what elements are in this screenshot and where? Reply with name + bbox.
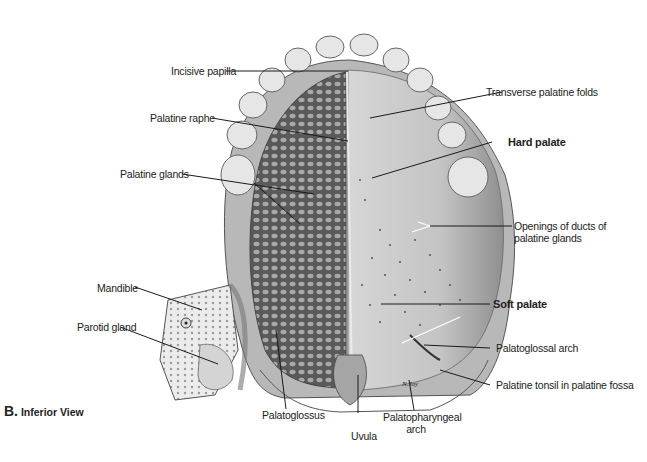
label-palatine-glands: Palatine glands: [120, 168, 189, 180]
anatomy-figure: N.Joy Incisive papilla Palatine raphe Pa…: [0, 0, 647, 462]
label-uvula: Uvula: [351, 430, 377, 442]
label-mandible: Mandible: [97, 282, 138, 294]
label-parotid-gland: Parotid gland: [77, 321, 136, 333]
label-openings-of-ducts: Openings of ducts of palatine glands: [514, 220, 606, 244]
label-palatopharyngeal-arch: Palatopharyngeal arch: [383, 411, 449, 435]
label-soft-palate: Soft palate: [493, 298, 547, 310]
label-palatine-raphe: Palatine raphe: [150, 112, 215, 124]
label-incisive-papilla: Incisive papilla: [171, 65, 236, 77]
label-palatoglossal-arch: Palatoglossal arch: [496, 342, 578, 354]
mandible-section: [160, 285, 245, 400]
panel-title: Inferior View: [21, 406, 84, 418]
figure-caption: B. Inferior View: [4, 403, 84, 419]
label-hard-palate: Hard palate: [508, 136, 566, 148]
label-palatoglossus: Palatoglossus: [262, 409, 325, 421]
panel-letter: B.: [4, 403, 18, 419]
label-palatine-tonsil: Palatine tonsil in palatine fossa: [496, 379, 634, 391]
label-transverse-palatine-folds: Transverse palatine folds: [486, 86, 598, 98]
artist-signature: N.Joy: [401, 380, 419, 388]
palate-soft-tissue: [224, 60, 514, 412]
